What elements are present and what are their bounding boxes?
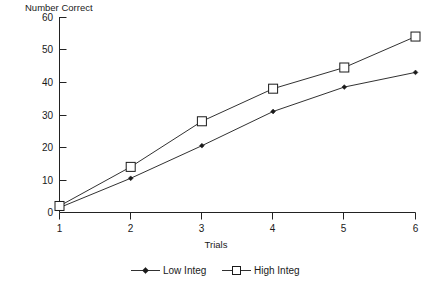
legend-marker-filled-diamond-icon [142,267,148,273]
legend-label-high-integ: High Integ [254,265,300,276]
data-point-open-square-icon [411,32,420,41]
data-point-open-square-icon [197,117,206,126]
y-tick-label: 60 [42,12,54,23]
series-layer [55,32,420,210]
legend-marker-open-square-icon [233,267,241,275]
y-tick-label: 30 [42,110,54,121]
x-tick-label: 2 [128,223,134,234]
y-tick-label: 40 [42,77,54,88]
data-point-filled-diamond-icon [342,85,347,90]
legend-item-low-integ[interactable]: Low Integ [131,265,206,276]
series-line-1 [60,37,416,206]
series-low-integ [57,70,418,210]
y-tick-label: 50 [42,44,54,55]
x-tick-label: 4 [270,223,276,234]
legend-label-low-integ: Low Integ [163,265,206,276]
x-tick-label: 6 [413,223,419,234]
y-tick-label: 0 [47,207,53,218]
data-point-open-square-icon [269,84,278,93]
x-tick-label: 5 [341,223,347,234]
chart-legend: Low Integ High Integ [131,265,300,276]
x-axis-title: Trials [205,239,228,250]
chart-canvas: Number Correct 60 50 40 30 20 10 0 1 [0,0,432,287]
y-tick-label: 10 [42,175,54,186]
line-chart: Number Correct 60 50 40 30 20 10 0 1 [0,0,432,287]
data-point-filled-diamond-icon [413,70,418,75]
data-point-filled-diamond-icon [271,109,276,114]
x-tick-label: 1 [57,223,63,234]
x-axis-ticks: 1 2 3 4 5 6 [57,213,419,235]
series-line-0 [60,72,416,207]
data-point-filled-diamond-icon [200,143,205,148]
x-tick-label: 3 [199,223,205,234]
data-point-open-square-icon [126,162,135,171]
data-point-open-square-icon [340,63,349,72]
data-point-filled-diamond-icon [128,176,133,181]
series-high-integ [55,32,420,210]
y-axis-ticks: 60 50 40 30 20 10 0 [42,12,67,218]
legend-item-high-integ[interactable]: High Integ [222,265,300,276]
y-axis-title: Number Correct [25,2,93,13]
y-tick-label: 20 [42,142,54,153]
data-point-open-square-icon [55,201,64,210]
